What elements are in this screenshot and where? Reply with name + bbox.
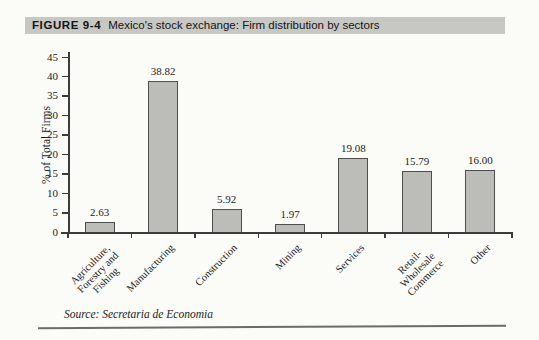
x-category-label-line: Construction [193, 242, 239, 288]
bar [85, 222, 115, 232]
y-tick [62, 173, 68, 175]
bar-value-label: 1.97 [258, 208, 322, 220]
x-tick [131, 232, 133, 238]
x-category-label: Other [468, 242, 493, 267]
x-tick [194, 232, 196, 238]
bar [338, 158, 368, 232]
x-category-label: Construction [193, 242, 239, 288]
bar-value-label: 16.00 [448, 154, 512, 166]
y-tick-label: 45 [26, 51, 58, 63]
bar [402, 171, 432, 232]
x-tick [448, 232, 450, 238]
y-tick-label: 0 [26, 226, 58, 238]
y-tick [62, 57, 68, 59]
y-tick-label: 10 [26, 187, 58, 199]
y-tick [62, 76, 68, 78]
figure-9-4: FIGURE 9-4Mexico's stock exchange: Firm … [0, 0, 539, 340]
x-category-label: Mining [273, 242, 303, 272]
y-tick-label: 40 [26, 70, 58, 82]
y-tick-label: 35 [26, 89, 58, 101]
bar [212, 209, 242, 232]
y-tick-label: 20 [26, 148, 58, 160]
y-tick-label: 30 [26, 109, 58, 121]
bar [148, 81, 178, 232]
x-category-label-line: Manufacturing [124, 242, 176, 294]
x-axis-line [61, 232, 513, 234]
bar [275, 224, 305, 232]
x-tick [321, 232, 323, 238]
bar-value-label: 38.82 [131, 65, 195, 77]
x-category-label-line: Mining [273, 242, 303, 272]
y-tick [62, 154, 68, 156]
x-category-label: Services [333, 242, 366, 275]
x-category-label-line: Other [468, 242, 493, 267]
x-tick [384, 232, 386, 238]
y-tick [62, 95, 68, 97]
y-tick-label: 15 [26, 167, 58, 179]
bar-value-label: 5.92 [195, 193, 259, 205]
x-tick [258, 232, 260, 238]
x-tick [67, 232, 69, 238]
bar-chart: % of Total Firms 0510152025303540452.63A… [0, 0, 539, 340]
x-tick [511, 232, 513, 238]
source-note: Source: Secretaria de Economia [64, 308, 213, 320]
y-tick [62, 134, 68, 136]
bar-value-label: 19.08 [321, 142, 385, 154]
y-tick [62, 193, 68, 195]
bar-value-label: 15.79 [385, 155, 449, 167]
x-category-label: Retail-WholesaleCommerce [389, 242, 445, 298]
y-tick [62, 115, 68, 117]
y-tick-label: 25 [26, 128, 58, 140]
x-category-label: Agriculture,Forestry andFishing [67, 242, 128, 303]
x-category-label-line: Services [333, 242, 366, 275]
y-tick-label: 5 [26, 206, 58, 218]
bar [465, 170, 495, 232]
x-category-label: Manufacturing [124, 242, 176, 294]
bar-value-label: 2.63 [68, 206, 132, 218]
